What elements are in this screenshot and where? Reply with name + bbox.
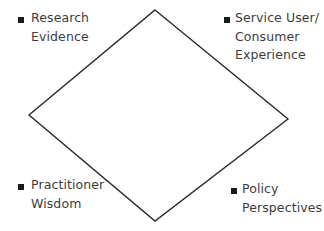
label-service-user-consumer-experience: Service User/ Consumer Experience (235, 9, 319, 65)
bullet-square-icon (18, 184, 24, 190)
label-line: Evidence (31, 28, 89, 47)
bullet-square-icon (18, 17, 24, 23)
label-practitioner-wisdom: Practitioner Wisdom (31, 176, 104, 213)
label-line: Wisdom (31, 195, 104, 214)
label-line: Perspectives (242, 199, 322, 218)
label-policy-perspectives: Policy Perspectives (242, 180, 322, 217)
label-line: Policy (242, 180, 322, 199)
label-line: Experience (235, 46, 319, 65)
bullet-square-icon (224, 17, 230, 23)
label-line: Practitioner (31, 176, 104, 195)
label-line: Consumer (235, 28, 319, 47)
bullet-square-icon (231, 188, 237, 194)
diagram-canvas: Research Evidence Service User/ Consumer… (0, 0, 324, 231)
label-line: Service User/ (235, 9, 319, 28)
label-line: Research (31, 9, 89, 28)
label-research-evidence: Research Evidence (31, 9, 89, 46)
